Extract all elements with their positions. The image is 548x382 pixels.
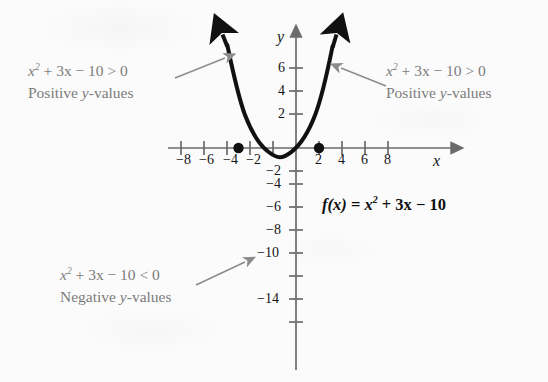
annotation-tl-post: -values xyxy=(89,84,134,101)
y-axis xyxy=(289,36,303,370)
annotation-tr-yvar: y xyxy=(440,84,447,101)
y-tick-label: −6 xyxy=(266,199,281,215)
x-tick-label: −8 xyxy=(176,152,191,168)
annotation-tr-pre: Positive xyxy=(386,84,440,101)
leader-line-top-left xyxy=(175,58,225,78)
function-rest: + 3x − 10 xyxy=(378,195,446,214)
y-axis-label: y xyxy=(277,28,284,46)
x-tick-label: 4 xyxy=(338,152,345,168)
annotation-top-left-line2: Positive y-values xyxy=(28,82,133,104)
annotation-bottom-left: x2 + 3x − 10 < 0 Negative y-values xyxy=(60,264,171,309)
annotation-tl-rest: + 3x − 10 > 0 xyxy=(40,62,128,79)
annotation-bl-yvar: y xyxy=(120,288,127,305)
annotation-top-left-expression: x2 + 3x − 10 > 0 xyxy=(28,60,133,82)
annotation-top-right-expression: x2 + 3x − 10 > 0 xyxy=(386,60,491,82)
annotation-top-left: x2 + 3x − 10 > 0 Positive y-values xyxy=(28,60,133,105)
function-arg: (x) xyxy=(328,195,347,214)
y-tick-label: 4 xyxy=(278,83,285,99)
annotation-tr-post: -values xyxy=(447,84,492,101)
annotation-bl-post: -values xyxy=(127,288,172,305)
y-tick-label: 6 xyxy=(278,60,285,76)
y-tick-label: 2 xyxy=(278,106,285,122)
x-tick-label: 6 xyxy=(361,152,368,168)
annotation-top-right: x2 + 3x − 10 > 0 Positive y-values xyxy=(386,60,491,105)
leader-line-bottom-left xyxy=(196,262,245,285)
annotation-top-right-line2: Positive y-values xyxy=(386,82,491,104)
annotation-tl-pre: Positive xyxy=(28,84,82,101)
annotation-bl-rest: + 3x − 10 < 0 xyxy=(72,266,160,283)
curve-right-arrow xyxy=(333,35,337,48)
y-tick-label: −10 xyxy=(257,245,279,261)
figure-canvas: y x −8 −6 −4 −2 2 4 6 8 6 4 2 −2 −4 −6 −… xyxy=(0,0,548,382)
annotation-bottom-left-line2: Negative y-values xyxy=(60,286,171,308)
y-tick-label: −4 xyxy=(266,176,281,192)
x-axis-label: x xyxy=(433,152,440,170)
annotation-tr-rest: + 3x − 10 > 0 xyxy=(398,62,486,79)
x-tick-label: −2 xyxy=(246,152,261,168)
y-tick-label: −8 xyxy=(266,222,281,238)
x-tick-label: −6 xyxy=(199,152,214,168)
x-tick-label: 2 xyxy=(315,152,322,168)
annotation-bottom-left-expression: x2 + 3x − 10 < 0 xyxy=(60,264,171,286)
function-label: f(x) = x2 + 3x − 10 xyxy=(322,194,446,215)
leader-line-top-right xyxy=(341,68,386,86)
y-tick-label: −14 xyxy=(257,291,279,307)
annotation-bl-var: x xyxy=(60,266,67,283)
annotation-bl-pre: Negative xyxy=(60,288,120,305)
annotation-tl-var: x xyxy=(28,62,35,79)
function-x: x xyxy=(364,195,372,214)
x-tick-label: −4 xyxy=(223,152,238,168)
annotation-tl-yvar: y xyxy=(82,84,89,101)
x-tick-label: 8 xyxy=(384,152,391,168)
curve-left-arrow xyxy=(223,35,228,47)
function-equals: = xyxy=(347,195,365,214)
annotation-tr-var: x xyxy=(386,62,393,79)
